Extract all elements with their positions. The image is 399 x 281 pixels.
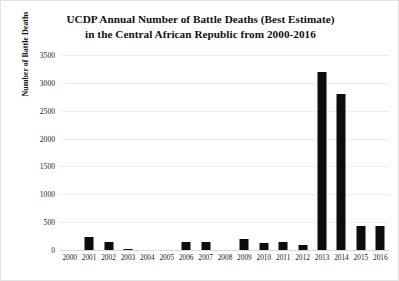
bar-slot	[60, 55, 79, 250]
x-tick-label: 2014	[334, 253, 349, 262]
bar-slot	[312, 55, 331, 250]
bar-slot	[118, 55, 137, 250]
chart-title-line-2: in the Central African Republic from 200…	[1, 27, 399, 42]
gridline-0	[60, 250, 390, 251]
y-tick-label: 3500	[40, 51, 55, 60]
bar-slot	[351, 55, 370, 250]
x-tick-label: 2009	[237, 253, 252, 262]
bar-slot	[254, 55, 273, 250]
bar-slot	[332, 55, 351, 250]
x-tick-label: 2000	[62, 253, 77, 262]
bar	[182, 242, 191, 250]
x-tick-label: 2001	[82, 253, 97, 262]
x-tick-label: 2005	[159, 253, 174, 262]
bar	[376, 226, 385, 251]
bar	[318, 72, 327, 250]
x-tick-label: 2006	[179, 253, 194, 262]
y-tick-label: 1000	[40, 190, 55, 199]
chart-title-line-1: UCDP Annual Number of Battle Deaths (Bes…	[1, 12, 399, 27]
bar	[85, 237, 94, 250]
bar	[201, 242, 210, 250]
bar-slot	[215, 55, 234, 250]
y-axis-label: Number of Battle Deaths	[21, 0, 30, 109]
bar-slot	[274, 55, 293, 250]
plot-area: 0500100015002000250030003500	[60, 55, 390, 250]
x-tick-label: 2003	[121, 253, 136, 262]
x-tick-label: 2012	[295, 253, 310, 262]
bar-slot	[138, 55, 157, 250]
x-tick-label: 2016	[373, 253, 388, 262]
bar	[259, 243, 268, 250]
bar	[123, 249, 132, 250]
x-tick-label: 2013	[315, 253, 330, 262]
bar	[356, 226, 365, 251]
bar-slot	[99, 55, 118, 250]
bar	[240, 239, 249, 250]
x-tick-label: 2010	[257, 253, 272, 262]
bar-slot	[371, 55, 390, 250]
bar-slot	[293, 55, 312, 250]
x-tick-label: 2008	[218, 253, 233, 262]
x-tick-label: 2002	[101, 253, 116, 262]
x-tick-label: 2011	[276, 253, 290, 262]
x-tick-label: 2015	[354, 253, 369, 262]
bar-slot	[176, 55, 195, 250]
y-tick-label: 2500	[40, 106, 55, 115]
bar-series	[60, 55, 390, 250]
bar-slot	[157, 55, 176, 250]
x-tick-label: 2007	[198, 253, 213, 262]
bar-slot	[79, 55, 98, 250]
y-tick-label: 1500	[40, 162, 55, 171]
y-tick-label: 0	[51, 246, 55, 255]
x-axis-ticks: 2000200120022003200420052006200720082009…	[60, 253, 390, 267]
bar-slot	[196, 55, 215, 250]
chart-title: UCDP Annual Number of Battle Deaths (Bes…	[1, 12, 399, 41]
chart-figure: UCDP Annual Number of Battle Deaths (Bes…	[0, 0, 399, 281]
bar	[298, 245, 307, 250]
bar	[337, 94, 346, 250]
bar	[279, 242, 288, 250]
y-tick-label: 3000	[40, 78, 55, 87]
bar-slot	[235, 55, 254, 250]
y-tick-label: 2000	[40, 134, 55, 143]
bar	[104, 242, 113, 250]
x-tick-label: 2004	[140, 253, 155, 262]
y-tick-label: 500	[44, 218, 55, 227]
